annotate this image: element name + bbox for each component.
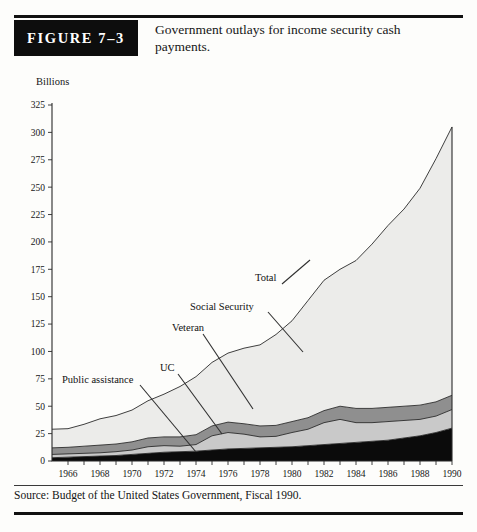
area-band-social-security bbox=[52, 127, 452, 448]
y-tick-label: 100 bbox=[31, 347, 46, 357]
y-tick-label: 325 bbox=[31, 100, 46, 110]
y-tick-label: 300 bbox=[31, 128, 46, 138]
annotation-label-social-security: Social Security bbox=[190, 301, 255, 312]
chart-bands bbox=[52, 127, 452, 461]
source-note: Source: Budget of the United States Gove… bbox=[14, 489, 301, 501]
y-tick-label: 50 bbox=[36, 402, 46, 412]
y-tick-label: 275 bbox=[31, 155, 46, 165]
area-chart: 0255075100125150175200225250275300325 19… bbox=[0, 0, 477, 480]
x-tick-label: 1968 bbox=[91, 469, 110, 479]
annotation-label-public-assistance: Public assistance bbox=[62, 374, 134, 385]
y-tick-label: 200 bbox=[31, 237, 46, 247]
y-tick-label: 250 bbox=[31, 183, 46, 193]
y-tick-label: 0 bbox=[40, 456, 45, 466]
y-tick-label: 175 bbox=[31, 265, 46, 275]
y-tick-label: 25 bbox=[36, 429, 46, 439]
figure-container: FIGURE 7–3 Government outlays for income… bbox=[0, 0, 477, 532]
y-tick-label: 125 bbox=[31, 319, 46, 329]
x-tick-label: 1988 bbox=[411, 469, 430, 479]
x-tick-label: 1970 bbox=[123, 469, 142, 479]
x-tick-label: 1990 bbox=[443, 469, 462, 479]
x-tick-label: 1980 bbox=[283, 469, 302, 479]
x-tick-label: 1986 bbox=[379, 469, 398, 479]
x-tick-label: 1972 bbox=[155, 469, 174, 479]
bottom-rule bbox=[14, 512, 463, 515]
y-tick-label: 150 bbox=[31, 292, 46, 302]
x-tick-label: 1984 bbox=[347, 469, 366, 479]
y-tick-labels: 0255075100125150175200225250275300325 bbox=[31, 100, 52, 466]
x-tick-label: 1982 bbox=[315, 469, 334, 479]
annotation-label-veteran: Veteran bbox=[172, 322, 205, 333]
y-tick-label: 75 bbox=[36, 374, 46, 384]
annotation-label-total: Total bbox=[255, 272, 277, 283]
annotation-label-uc: UC bbox=[160, 362, 175, 373]
x-tick-label: 1974 bbox=[187, 469, 206, 479]
x-tick-label: 1976 bbox=[219, 469, 238, 479]
x-tick-labels: 1966196819701972197419761978198019821984… bbox=[59, 461, 462, 479]
source-rule bbox=[14, 485, 463, 486]
annotation-leader-line bbox=[282, 260, 310, 284]
x-tick-label: 1978 bbox=[251, 469, 270, 479]
x-tick-label: 1966 bbox=[59, 469, 78, 479]
y-tick-label: 225 bbox=[31, 210, 46, 220]
